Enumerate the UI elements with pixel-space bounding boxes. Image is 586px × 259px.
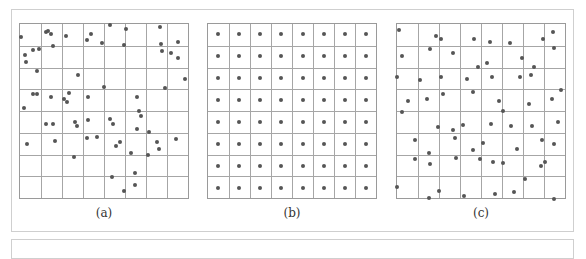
grid-hline (397, 89, 565, 90)
sample-point (169, 51, 173, 55)
sample-point (139, 114, 143, 118)
sample-point (85, 136, 89, 140)
sample-point (111, 122, 115, 126)
grid-hline (20, 46, 188, 47)
sample-point (35, 92, 39, 96)
sample-point (322, 120, 326, 124)
sample-point (216, 164, 220, 168)
sample-point (86, 118, 90, 122)
sample-point (434, 34, 438, 38)
sample-point (395, 75, 399, 79)
sample-point (24, 60, 28, 64)
sample-point (453, 136, 457, 140)
sample-point (451, 51, 455, 55)
sample-point (472, 37, 476, 41)
grid-c (396, 23, 566, 199)
sample-point (135, 127, 139, 131)
grid-hline (397, 111, 565, 112)
sample-point (237, 186, 241, 190)
grid-hline (20, 155, 188, 156)
sample-point (454, 156, 458, 160)
sample-point (53, 139, 57, 143)
sample-point (183, 77, 187, 81)
grid-hline (397, 68, 565, 69)
sample-point (237, 98, 241, 102)
sample-point (133, 171, 137, 175)
next-figure-frame (11, 239, 574, 259)
grid-hline (208, 68, 376, 69)
sample-point (110, 175, 114, 179)
sample-point (301, 164, 305, 168)
sample-point (19, 35, 23, 39)
sample-point (406, 99, 410, 103)
grid-hline (208, 155, 376, 156)
sample-point (471, 148, 475, 152)
panel-b-label: (b) (207, 206, 377, 220)
sample-point (441, 92, 445, 96)
sample-point (237, 54, 241, 58)
grid-hline (20, 133, 188, 134)
sample-point (118, 140, 122, 144)
grid-hline (397, 176, 565, 177)
sample-point (237, 120, 241, 124)
sample-point (124, 27, 128, 31)
sample-point (439, 75, 443, 79)
sample-point (147, 130, 151, 134)
grid-hline (208, 46, 376, 47)
sample-point (49, 95, 53, 99)
sample-point (51, 122, 55, 126)
grid-b (207, 23, 377, 199)
sample-point (301, 32, 305, 36)
sample-point (158, 25, 162, 29)
sample-point (216, 186, 220, 190)
sample-point (471, 90, 475, 94)
panel-a-label: (a) (19, 206, 189, 220)
sample-point (155, 140, 159, 144)
grid-hline (397, 133, 565, 134)
sample-point (400, 54, 404, 58)
sample-point (163, 86, 167, 90)
sample-point (322, 186, 326, 190)
sample-point (67, 91, 71, 95)
sample-point (216, 120, 220, 124)
sample-point (418, 78, 422, 82)
grid-hline (20, 176, 188, 177)
sample-point (462, 194, 466, 198)
sample-point (237, 164, 241, 168)
sample-point (488, 40, 492, 44)
sample-point (301, 98, 305, 102)
sample-point (159, 42, 163, 46)
sample-point (322, 32, 326, 36)
sample-point (31, 48, 35, 52)
sample-point (301, 76, 305, 80)
sample-point (72, 155, 76, 159)
sample-point (65, 100, 69, 104)
sample-point (22, 106, 26, 110)
sample-point (89, 32, 93, 36)
grid-hline (20, 68, 188, 69)
grid-hline (208, 133, 376, 134)
sample-point (86, 95, 90, 99)
panel-b-uniform-grid (207, 23, 377, 199)
sample-point (237, 142, 241, 146)
grid-hline (208, 111, 376, 112)
sample-point (395, 185, 399, 189)
sample-point (216, 98, 220, 102)
sample-point (425, 97, 429, 101)
sample-point (49, 32, 53, 36)
sample-point (301, 54, 305, 58)
sample-point (322, 164, 326, 168)
sample-point (400, 110, 404, 114)
grid-hline (208, 176, 376, 177)
sample-point (216, 54, 220, 58)
sample-point (465, 77, 469, 81)
sample-point (481, 141, 485, 145)
sample-point (427, 196, 431, 200)
sample-point (216, 76, 220, 80)
sample-point (322, 54, 326, 58)
sample-point (436, 125, 440, 129)
sample-point (108, 117, 112, 121)
sample-point (322, 76, 326, 80)
sample-point (135, 95, 139, 99)
sample-point (23, 53, 27, 57)
